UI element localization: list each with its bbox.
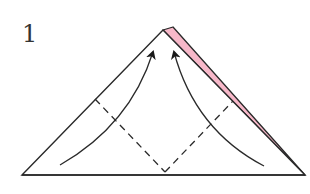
outline-triangle (22, 30, 305, 175)
origami-diagram (0, 0, 310, 194)
